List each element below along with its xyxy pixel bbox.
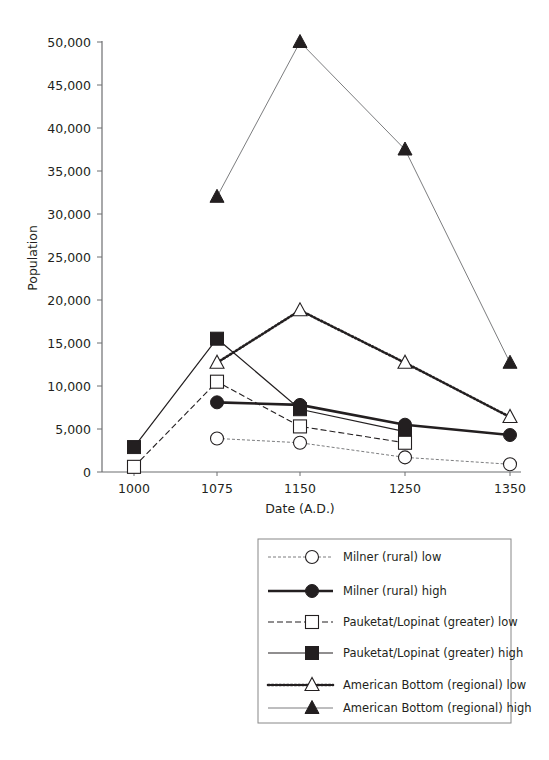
axes: 05,00010,00015,00020,00025,00030,00035,0… (47, 35, 526, 497)
y-tick-label: 35,000 (47, 164, 91, 179)
data-point (294, 398, 307, 411)
y-tick-label: 5,000 (55, 422, 91, 437)
legend: Milner (rural) lowMilner (rural) highPau… (258, 539, 532, 723)
series-line-3 (134, 339, 405, 447)
legend-box (258, 539, 511, 723)
x-axis-title: Date (A.D.) (265, 501, 335, 516)
y-axis-title: Population (25, 225, 40, 291)
data-point (294, 420, 307, 433)
x-tick-label: 1350 (494, 481, 526, 496)
legend-marker-icon (306, 585, 319, 598)
legend-marker-icon (306, 551, 319, 564)
series-markers-5 (210, 35, 517, 369)
data-point (399, 418, 412, 431)
y-tick-label: 15,000 (47, 336, 91, 351)
y-tick-label: 25,000 (47, 250, 91, 265)
legend-label: Pauketat/Lopinat (greater) low (343, 615, 518, 629)
x-tick-label: 1250 (389, 481, 421, 496)
data-point (503, 355, 517, 368)
series-line-0 (217, 438, 510, 464)
population-chart: Population 05,00010,00015,00020,00025,00… (0, 0, 549, 760)
y-tick-label: 20,000 (47, 293, 91, 308)
legend-item: Pauketat/Lopinat (greater) high (268, 646, 523, 660)
legend-label: American Bottom (regional) low (343, 678, 526, 692)
series-line-1 (217, 402, 510, 435)
data-point (128, 460, 141, 473)
legend-label: Pauketat/Lopinat (greater) high (343, 646, 523, 660)
series-markers-3 (128, 332, 412, 453)
data-point (293, 35, 307, 48)
data-point (211, 396, 224, 409)
data-point (503, 409, 517, 422)
y-tick-label: 10,000 (47, 379, 91, 394)
data-point (211, 375, 224, 388)
data-point (210, 189, 224, 202)
legend-label: Milner (rural) high (343, 584, 447, 598)
data-point (398, 355, 412, 368)
x-tick-label: 1000 (118, 481, 150, 496)
series-line-5 (217, 42, 510, 363)
data-point (210, 355, 224, 368)
x-tick-label: 1150 (284, 481, 316, 496)
legend-label: Milner (rural) low (343, 550, 441, 564)
data-point (504, 458, 517, 471)
y-tick-label: 0 (83, 465, 91, 480)
data-point (504, 429, 517, 442)
legend-marker-icon (306, 616, 319, 629)
data-point (399, 436, 412, 449)
legend-marker-icon (306, 647, 319, 660)
y-tick-label: 40,000 (47, 121, 91, 136)
data-point (128, 441, 141, 454)
data-point (211, 432, 224, 445)
x-tick-label: 1075 (201, 481, 233, 496)
legend-item: Pauketat/Lopinat (greater) low (268, 615, 518, 629)
data-point (294, 436, 307, 449)
y-tick-label: 45,000 (47, 78, 91, 93)
data-point (399, 451, 412, 464)
legend-label: American Bottom (regional) high (343, 701, 532, 715)
data-point (211, 332, 224, 345)
data-point (293, 303, 307, 316)
series-layer (128, 35, 518, 474)
y-tick-label: 30,000 (47, 207, 91, 222)
y-tick-label: 50,000 (47, 35, 91, 50)
series-line-4 (217, 310, 510, 417)
